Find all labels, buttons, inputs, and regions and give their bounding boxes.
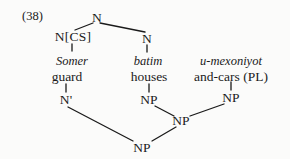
translation-column-2: houses (131, 70, 168, 84)
figure-canvas: (38) N N[CS] N Somer batim u-mexoniyot g… (0, 0, 290, 159)
node-root-n: N (92, 11, 102, 25)
edge-root-to-right-n (100, 23, 145, 32)
node-np-right-upper: NP (222, 91, 240, 105)
example-number: (38) (22, 10, 43, 23)
edge-np-middle-to-mid-np (155, 106, 174, 116)
gloss-column-3: u-mexoniyot (200, 55, 262, 68)
gloss-column-1: Somer (56, 55, 88, 68)
edge-nbar-to-root-np (68, 107, 133, 141)
node-np-mid: NP (172, 114, 190, 128)
node-n-bar: N' (60, 93, 73, 107)
translation-column-1: guard (52, 70, 83, 84)
translation-column-3: and-cars (PL) (194, 70, 268, 84)
node-np-root: NP (133, 141, 151, 155)
node-np-middle-upper: NP (140, 93, 158, 107)
edge-np-right-to-mid-np (190, 104, 224, 116)
gloss-column-2: batim (134, 55, 162, 68)
node-right-n: N (142, 32, 152, 46)
node-construct-n: N[CS] (55, 30, 91, 44)
edge-mid-np-to-root-np (152, 127, 176, 141)
